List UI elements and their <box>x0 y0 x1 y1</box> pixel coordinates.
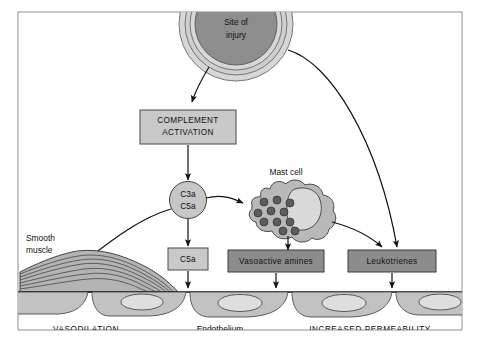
c5a-circle-label: C5a <box>180 201 196 211</box>
caption-vasodilation: VASODILATION <box>53 325 119 334</box>
smooth-muscle-label-line1: Smooth <box>26 233 55 243</box>
vasoactive-amines-label: Vasoactive amines <box>239 257 313 266</box>
c3a-label: C3a <box>180 189 196 199</box>
c5a-box-label: C5a <box>180 255 196 264</box>
c5a-box-node: C5a <box>168 248 208 270</box>
complement-label-line1: COMPLEMENT <box>157 116 218 125</box>
injury-label-line2: injury <box>226 30 247 40</box>
leukotrienes-label: Leukotrienes <box>366 257 417 266</box>
mast-cell-label: Mast cell <box>269 167 302 177</box>
complement-activation-node: COMPLEMENT ACTIVATION <box>140 110 236 144</box>
smooth-muscle-label-line2: muscle <box>26 245 53 255</box>
complement-label-line2: ACTIVATION <box>162 128 213 137</box>
endothelial-nucleus <box>218 295 262 312</box>
leukotrienes-box-node: Leukotrienes <box>348 250 436 272</box>
vasoactive-amines-box-node: Vasoactive amines <box>228 250 324 272</box>
inflammation-pathway-figure: Site of injury COMPLEMENT ACTIVATION C3a… <box>0 0 481 351</box>
caption-endothelium: Endothelium <box>197 324 244 334</box>
c3a-c5a-node: C3a C5a <box>170 182 207 219</box>
endothelial-nucleus <box>322 295 366 312</box>
endothelial-nucleus <box>121 294 163 310</box>
caption-increased-permeability: INCREASED PERMEABILITY <box>309 325 431 334</box>
endothelial-nucleus <box>419 294 461 310</box>
injury-label-line1: Site of <box>224 17 248 27</box>
